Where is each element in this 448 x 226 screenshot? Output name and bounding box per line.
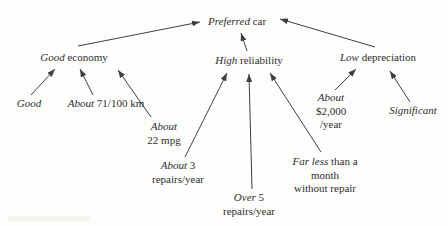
arrow-significant-to-depreciation	[390, 71, 410, 102]
node-significant-em: Significant	[389, 104, 437, 116]
node-high-reliability-em: High	[215, 54, 237, 66]
arrow-reliability-to-preferred	[241, 33, 247, 51]
node-good: Good	[17, 97, 41, 111]
node-preferred-car-text: car	[250, 15, 266, 27]
arrow-farless-to-reliability	[270, 73, 321, 152]
node-far-less-month-text: than a	[328, 155, 357, 167]
node-about-71-100-km-text: 71/100 km	[94, 97, 144, 109]
node-about-3-repairs-text: 3	[187, 159, 195, 171]
node-about-22-mpg-em: About	[151, 120, 177, 132]
node-about-2000-year-em: About	[318, 91, 344, 103]
node-high-reliability-text: reliability	[237, 54, 283, 66]
node-about-22-mpg-line2: 22 mpg	[147, 134, 180, 148]
node-over-5-repairs-em: Over	[234, 191, 256, 203]
node-preferred-car: Preferred car	[208, 15, 266, 29]
arrow-cost-to-depreciation	[335, 69, 356, 90]
node-preferred-car-em: Preferred	[208, 15, 250, 27]
arrow-repairs5-to-reliability	[249, 74, 252, 189]
node-about-22-mpg: About 22 mpg	[147, 120, 180, 147]
node-far-less-month-line3: without repair	[292, 182, 357, 196]
arrow-l100km-to-economy	[80, 69, 93, 95]
node-about-2000-year-line3: /year	[316, 118, 346, 132]
node-low-depreciation: Low depreciation	[340, 51, 416, 65]
node-about-3-repairs-em: About	[161, 159, 187, 171]
arrow-economy-to-preferred	[78, 22, 200, 46]
arrow-repairs3-to-reliability	[185, 73, 227, 157]
node-about-2000-year-line2: $2,000	[316, 105, 346, 119]
node-good-economy-text: economy	[65, 51, 108, 63]
node-far-less-month-em: Far less	[292, 155, 328, 167]
node-good-em: Good	[17, 97, 41, 109]
value-tree-diagram: Preferred car Good economy High reliabil…	[0, 0, 448, 226]
node-far-less-month: Far less than a month without repair	[292, 155, 357, 196]
node-good-economy: Good economy	[40, 51, 108, 65]
node-over-5-repairs: Over 5 repairs/year	[223, 191, 275, 218]
node-far-less-month-line2: month	[292, 169, 357, 183]
node-about-71-100-km: About 71/100 km	[68, 97, 144, 111]
arrow-good-to-economy	[31, 69, 55, 95]
node-about-3-repairs: About 3 repairs/year	[152, 159, 204, 186]
node-high-reliability: High reliability	[215, 54, 283, 68]
node-low-depreciation-em: Low	[340, 51, 359, 63]
faint-caption-artifact	[8, 216, 90, 221]
node-significant: Significant	[389, 104, 437, 118]
node-good-economy-em: Good	[40, 51, 64, 63]
node-over-5-repairs-line2: repairs/year	[223, 205, 275, 219]
node-about-3-repairs-line2: repairs/year	[152, 173, 204, 187]
node-about-71-100-km-em: About	[68, 97, 94, 109]
arrow-depreciation-to-preferred	[280, 19, 375, 47]
node-low-depreciation-text: depreciation	[359, 51, 416, 63]
node-about-2000-year: About $2,000 /year	[316, 91, 346, 132]
node-over-5-repairs-text: 5	[256, 191, 264, 203]
